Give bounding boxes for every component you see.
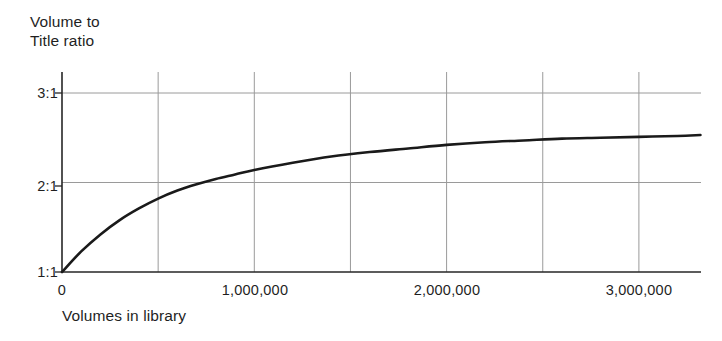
chart-plot-area <box>0 0 722 341</box>
y-axis-ticks <box>55 93 62 272</box>
vertical-gridlines <box>158 72 639 272</box>
chart-figure: Volume to Title ratio 3:1 2:1 1:1 0 1,00… <box>0 0 722 341</box>
